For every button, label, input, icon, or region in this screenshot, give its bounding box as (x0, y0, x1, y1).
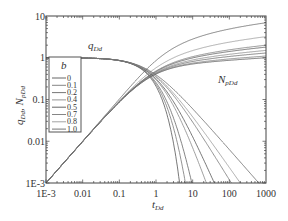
y-axis-label: qDd, NpDd (13, 86, 27, 125)
x-tick-label: 0.1 (113, 188, 126, 199)
chart-area: 1E-30.010.111010010001E-30.010.1110 qDd … (0, 0, 288, 221)
y-tick-label: 10 (35, 11, 45, 22)
x-tick-label: 1000 (256, 188, 276, 199)
x-tick-label: 0.01 (74, 188, 92, 199)
legend: b 00.10.20.40.50.70.81.0 (49, 57, 81, 134)
y-tick-label: 0.01 (28, 136, 46, 147)
legend-entry-label: 1.0 (67, 125, 77, 134)
x-tick-label: 10 (188, 188, 198, 199)
n-pdd-label: NpDd (217, 73, 238, 87)
y-tick-label: 1E-3 (26, 178, 45, 189)
x-tick-label: 1E-3 (36, 188, 55, 199)
x-tick-label: 100 (222, 188, 237, 199)
y-tick-label: 1 (40, 52, 45, 63)
q-dd-label: qDd (88, 39, 103, 53)
x-axis-label: tDd (152, 198, 164, 212)
legend-title: b (61, 59, 67, 71)
y-tick-label: 0.1 (33, 94, 46, 105)
